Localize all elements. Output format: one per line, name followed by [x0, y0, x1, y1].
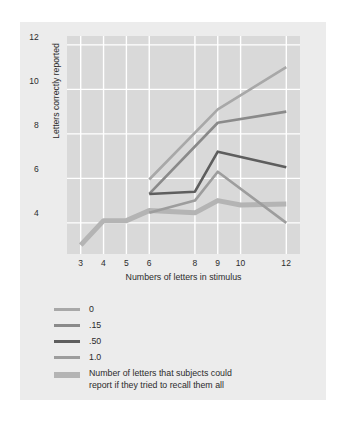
x-tick-9: 9 — [208, 258, 228, 268]
legend-label-0: 0 — [89, 303, 94, 316]
y-tick-6: 6 — [15, 164, 39, 174]
y-tick-12: 12 — [15, 32, 39, 42]
x-tick-3: 3 — [71, 258, 91, 268]
legend-label-1: .15 — [89, 319, 101, 332]
y-tick-8: 8 — [15, 120, 39, 130]
y-tick-10: 10 — [15, 76, 39, 86]
x-tick-8: 8 — [185, 258, 205, 268]
legend-item-4[interactable]: Number of letters that subjects couldrep… — [54, 367, 316, 391]
x-tick-4: 4 — [94, 258, 114, 268]
x-tick-6: 6 — [139, 258, 159, 268]
chart-legend: 0.15.501.0Number of letters that subject… — [54, 303, 316, 394]
legend-label-2: .50 — [89, 335, 101, 348]
legend-item-2[interactable]: .50 — [54, 335, 316, 348]
legend-item-1[interactable]: .15 — [54, 319, 316, 332]
figure-card: 12 10 8 6 4 Letters correctly reported 3… — [20, 22, 326, 400]
legend-swatch-0 — [54, 308, 80, 311]
plot-area — [67, 36, 300, 254]
legend-item-0[interactable]: 0 — [54, 303, 316, 316]
x-tick-5: 5 — [116, 258, 136, 268]
legend-label-3: 1.0 — [89, 351, 101, 364]
chart-svg — [67, 36, 300, 254]
y-tick-4: 4 — [15, 208, 39, 218]
legend-label-4-line2: report if they tried to recall them all — [89, 380, 232, 392]
x-tick-12: 12 — [276, 258, 296, 268]
legend-swatch-3 — [54, 356, 80, 359]
x-tick-10: 10 — [231, 258, 251, 268]
legend-swatch-1 — [54, 324, 80, 327]
x-axis-label: Numbers of letters in stimulus — [67, 272, 300, 282]
legend-label-4: Number of letters that subjects couldrep… — [89, 367, 232, 391]
series-lines — [81, 67, 287, 245]
legend-swatch-4 — [54, 372, 80, 378]
legend-swatch-2 — [54, 340, 80, 343]
y-axis-label: Letters correctly reported — [51, 21, 61, 161]
legend-item-3[interactable]: 1.0 — [54, 351, 316, 364]
